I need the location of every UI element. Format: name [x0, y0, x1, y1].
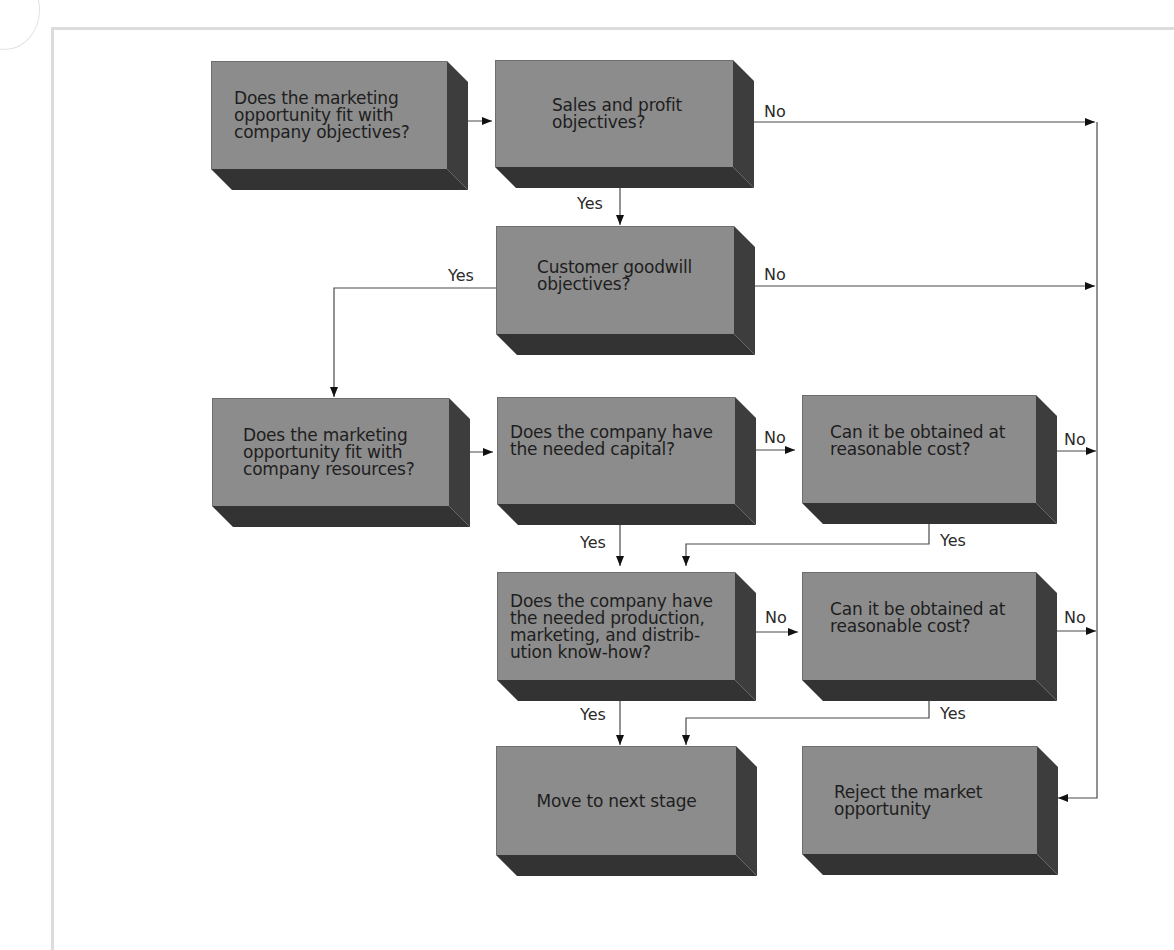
node-text: Can it be obtained at reasonable cost?: [803, 601, 1005, 635]
node-text: Does the company have the needed capital…: [498, 424, 713, 458]
edge-label-knowhow-yes: Yes: [580, 707, 606, 723]
node-move-to-next-stage: Move to next stage: [496, 746, 758, 877]
node-fit-company-resources: Does the marketing opportunity fit with …: [212, 398, 470, 528]
edge-label-capital-obtain-no: No: [1064, 432, 1086, 448]
node-text: Does the marketing opportunity fit with …: [212, 90, 409, 141]
edge-label-knowhow-obtain-yes: Yes: [940, 706, 966, 722]
node-fit-company-objectives: Does the marketing opportunity fit with …: [211, 61, 469, 191]
node-text: Sales and profit objectives?: [496, 97, 682, 131]
node-know-how-obtainable: Can it be obtained at reasonable cost?: [802, 572, 1058, 702]
edge-label-capital-no: No: [764, 430, 786, 446]
node-text: Customer goodwill objectives?: [497, 259, 692, 293]
edge-label-sales-no: No: [764, 104, 786, 120]
edge-label-sales-yes: Yes: [577, 196, 603, 212]
edge-label-capital-obtain-yes: Yes: [940, 533, 966, 549]
node-sales-profit-objectives: Sales and profit objectives?: [495, 60, 755, 189]
node-customer-goodwill-objectives: Customer goodwill objectives?: [496, 226, 756, 356]
node-capital-obtainable: Can it be obtained at reasonable cost?: [802, 395, 1058, 525]
node-needed-know-how: Does the company have the needed product…: [497, 572, 757, 702]
edge-label-knowhow-obtain-no: No: [1064, 610, 1086, 626]
node-text: Move to next stage: [497, 793, 736, 810]
node-reject-opportunity: Reject the market opportunity: [802, 746, 1058, 876]
edge-label-capital-yes: Yes: [580, 535, 606, 551]
edge-label-goodwill-yes: Yes: [448, 268, 474, 284]
node-text: Reject the market opportunity: [803, 784, 982, 818]
node-needed-capital: Does the company have the needed capital…: [497, 397, 757, 526]
edge-label-knowhow-no: No: [765, 610, 787, 626]
node-text: Does the company have the needed product…: [498, 593, 713, 661]
node-text: Does the marketing opportunity fit with …: [213, 427, 415, 478]
edge-label-goodwill-no: No: [764, 267, 786, 283]
node-text: Can it be obtained at reasonable cost?: [803, 424, 1005, 458]
